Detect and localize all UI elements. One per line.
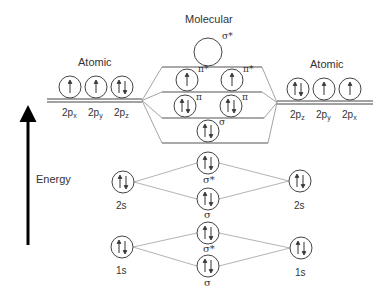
label-pi-star-2: π* — [243, 64, 253, 74]
orbital-pi-star-2 — [221, 69, 243, 91]
label-right-2s: 2s — [294, 200, 305, 211]
energy-arrow — [20, 105, 37, 245]
label-right-2px: 2px — [342, 109, 357, 121]
orbital-right-2px — [339, 78, 361, 100]
label-right-1s: 1s — [295, 267, 306, 278]
label-left-2s: 2s — [116, 200, 127, 211]
label-left-2py: 2py — [88, 107, 103, 119]
orbital-left-2pz — [111, 76, 133, 98]
label-left-1s: 1s — [116, 265, 127, 276]
orbital-right-2s — [289, 170, 311, 192]
orbital-right-2pz — [287, 78, 309, 100]
label-sigma-2p: σ — [219, 117, 225, 127]
label-sigma-2s: σ — [204, 209, 211, 220]
orbital-sigma-2s — [197, 188, 219, 210]
orbital-sigma-2p — [197, 120, 219, 142]
label-left-2px: 2px — [62, 107, 77, 119]
label-left-2pz: 2pz — [114, 107, 129, 119]
orbital-left-2py — [85, 76, 107, 98]
right-atomic-title: Atomic — [310, 58, 344, 70]
label-pi-1: π — [196, 92, 202, 102]
energy-axis-label: Energy — [36, 173, 71, 185]
orbital-left-2s — [112, 171, 134, 193]
label-pi-star-1: π* — [198, 64, 208, 74]
molecular-title: Molecular — [185, 13, 233, 25]
label-sigma-1s: σ — [204, 277, 211, 288]
mo-diagram — [0, 0, 391, 301]
orbital-sigma-star-1s — [197, 222, 219, 244]
orbital-pi-star-1 — [176, 69, 198, 91]
label-right-2py: 2py — [316, 109, 331, 121]
orbital-right-2py — [313, 78, 335, 100]
orbital-left-2px — [59, 76, 81, 98]
orbital-sigma-star-2s — [197, 152, 219, 174]
orbital-pi-2 — [220, 95, 242, 117]
label-right-2pz: 2pz — [290, 109, 305, 121]
label-pi-2: π — [242, 92, 248, 102]
orbital-sigma-star-2p — [194, 38, 222, 66]
orbital-sigma-1s — [197, 255, 219, 277]
label-sigma-star-1s: σ* — [203, 243, 215, 254]
left-atomic-title: Atomic — [78, 56, 112, 68]
orbital-right-1s — [290, 237, 312, 259]
orbital-pi-1 — [174, 95, 196, 117]
left-2p-level-line — [47, 99, 142, 102]
label-sigma-star-2s: σ* — [203, 174, 215, 185]
right-2p-level-line — [277, 101, 373, 104]
label-sigma-star-2p: σ* — [222, 31, 233, 41]
orbital-left-1s — [111, 236, 133, 258]
